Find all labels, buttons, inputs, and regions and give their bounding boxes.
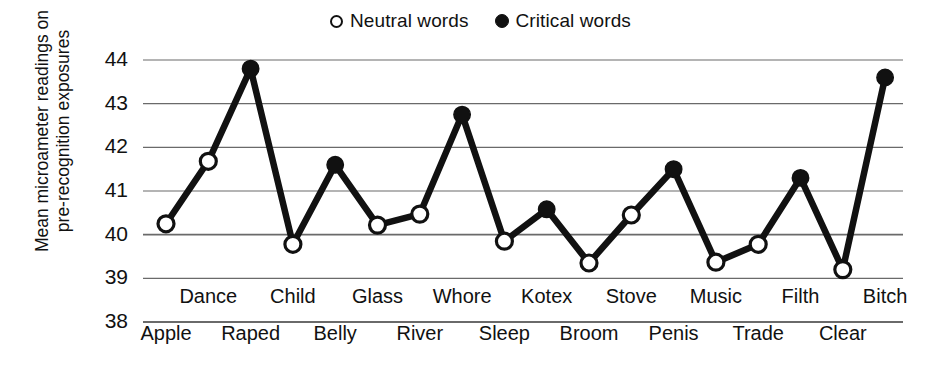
x-category-label-sleep: Sleep: [479, 322, 530, 345]
x-category-label-trade: Trade: [732, 322, 784, 345]
y-tick-label-42: 42: [88, 134, 128, 158]
x-category-label-penis: Penis: [649, 322, 699, 345]
x-category-label-apple: Apple: [140, 322, 191, 345]
critical-data-point-bitch: [877, 69, 893, 85]
x-category-label-glass: Glass: [352, 285, 403, 308]
neutral-data-point-apple: [158, 216, 174, 232]
y-tick-label-39: 39: [88, 265, 128, 289]
x-category-label-raped: Raped: [221, 322, 280, 345]
y-tick-label-38: 38: [88, 309, 128, 333]
neutral-data-point-stove: [623, 207, 639, 223]
y-tick-label-40: 40: [88, 222, 128, 246]
data-line: [166, 69, 885, 270]
x-category-label-broom: Broom: [560, 322, 619, 345]
neutral-data-point-river: [412, 206, 428, 222]
x-category-label-clear: Clear: [819, 322, 867, 345]
x-category-label-child: Child: [270, 285, 316, 308]
critical-data-point-kotex: [539, 201, 555, 217]
x-category-label-kotex: Kotex: [521, 285, 572, 308]
critical-data-point-whore: [454, 106, 470, 122]
neutral-data-point-trade: [750, 236, 766, 252]
x-category-label-river: River: [396, 322, 443, 345]
neutral-data-point-child: [285, 236, 301, 252]
neutral-data-point-glass: [370, 217, 386, 233]
critical-data-point-penis: [665, 161, 681, 177]
plot-area: [0, 0, 945, 371]
x-category-label-filth: Filth: [782, 285, 820, 308]
chart-figure: Neutral words Critical words Mean microa…: [0, 0, 945, 371]
x-category-label-belly: Belly: [314, 322, 357, 345]
critical-data-point-raped: [242, 60, 258, 76]
y-tick-label-43: 43: [88, 91, 128, 115]
neutral-data-point-sleep: [496, 233, 512, 249]
x-category-label-dance: Dance: [179, 285, 237, 308]
x-category-label-whore: Whore: [433, 285, 492, 308]
neutral-data-point-music: [708, 254, 724, 270]
neutral-data-point-clear: [835, 262, 851, 278]
x-category-label-stove: Stove: [606, 285, 657, 308]
y-tick-label-41: 41: [88, 178, 128, 202]
neutral-data-point-broom: [581, 255, 597, 271]
critical-data-point-filth: [792, 170, 808, 186]
y-tick-label-44: 44: [88, 47, 128, 71]
critical-data-point-belly: [327, 157, 343, 173]
x-category-label-bitch: Bitch: [863, 285, 907, 308]
x-category-label-music: Music: [690, 285, 742, 308]
neutral-data-point-dance: [200, 153, 216, 169]
